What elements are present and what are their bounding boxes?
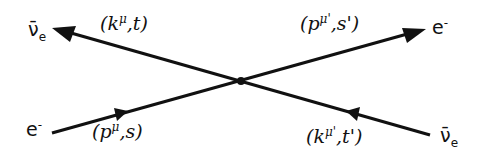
scattering-diagram [0,0,482,158]
arrow-top-right-icon [402,28,426,43]
momentum-label-bottom-left: (pμ,s) [92,120,143,142]
particle-bottom-left: e- [26,118,42,140]
momentum-label-top-left: (kμ,t) [100,12,148,34]
particle-top-right: e- [432,16,448,38]
momentum-label-bottom-right: (kμ',t') [306,125,362,147]
particle-bottom-right: ν̄e [440,124,458,150]
particle-top-left: ν̄e [28,18,46,44]
arrow-bottom-right-icon [346,107,360,121]
arrow-top-left-icon [52,26,76,42]
electron-line [52,31,418,133]
momentum-label-top-right: (pμ',s') [300,12,359,34]
vertex [237,77,245,85]
